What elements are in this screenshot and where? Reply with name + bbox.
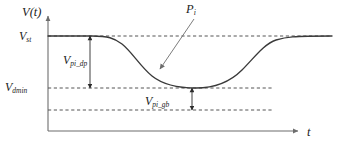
voltage-droop-figure: V(t) t Vst Vdmin Vpi_dp Vpi_gb Pi bbox=[0, 0, 340, 157]
y-axis-label: V(t) bbox=[22, 6, 41, 19]
dimension-label-v-pi-gb-sub: pi_gb bbox=[152, 100, 169, 109]
annotation-label-p-i-sub: i bbox=[194, 8, 196, 17]
callout-leader-p-i bbox=[160, 19, 194, 69]
level-label-v-dmin-sub: dmin bbox=[12, 86, 27, 95]
annotation-label-p-i-base: P bbox=[186, 2, 194, 16]
level-label-v-dmin: Vdmin bbox=[5, 81, 27, 93]
level-label-v-st-sub: st bbox=[26, 35, 31, 44]
voltage-droop-curve bbox=[48, 36, 332, 88]
annotation-label-p-i: Pi bbox=[186, 3, 196, 16]
x-axis-label: t bbox=[307, 126, 310, 139]
dimension-label-v-pi-dp: Vpi_dp bbox=[63, 54, 87, 66]
dimension-label-v-pi-gb: Vpi_gb bbox=[145, 95, 169, 107]
level-label-v-st: Vst bbox=[19, 30, 31, 42]
dimension-label-v-pi-dp-sub: pi_dp bbox=[70, 59, 87, 68]
figure-canvas bbox=[0, 0, 340, 157]
